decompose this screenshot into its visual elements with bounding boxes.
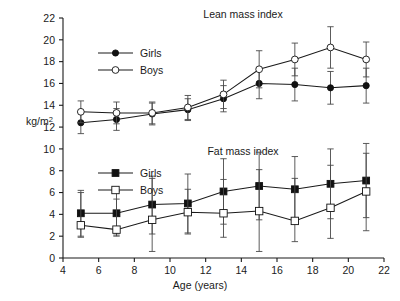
y-tick-label: 4 xyxy=(49,208,55,220)
y-tick-label: 0 xyxy=(49,252,55,264)
x-tick-label: 14 xyxy=(235,264,247,276)
y-axis-title-superscript: 2 xyxy=(49,115,53,124)
y-tick-label: 2 xyxy=(49,230,55,242)
data-point-marker xyxy=(184,208,191,215)
fat-mass-panel-title: Fat mass index xyxy=(207,145,279,157)
legend-lean-boys-marker xyxy=(112,67,119,74)
y-tick-label: 20 xyxy=(43,34,55,46)
lean-mass-legend: Girls Boys xyxy=(98,47,163,76)
data-point-marker xyxy=(291,56,298,63)
legend-fat-boys-marker xyxy=(112,186,119,193)
chart-figure: 0246810121416182022 46810121416182022 kg… xyxy=(0,0,400,301)
x-axis-tick-group: 46810121416182022 xyxy=(60,258,390,276)
x-tick-label: 4 xyxy=(60,264,66,276)
data-point-marker xyxy=(255,207,262,214)
x-tick-label: 8 xyxy=(131,264,137,276)
y-tick-label: 8 xyxy=(49,165,55,177)
data-point-marker xyxy=(148,216,155,223)
y-axis-title-main: kg/m xyxy=(26,115,49,127)
y-axis-tick-group: 0246810121416182022 xyxy=(43,12,63,264)
data-point-marker xyxy=(327,204,334,211)
data-series-layer xyxy=(77,27,370,252)
data-point-marker xyxy=(184,104,191,111)
data-point-marker xyxy=(363,56,370,63)
y-tick-label: 10 xyxy=(43,143,55,155)
error-bar xyxy=(327,165,333,238)
data-point-marker xyxy=(149,110,156,117)
data-point-marker xyxy=(327,85,333,91)
x-tick-label: 20 xyxy=(342,264,354,276)
fat-mass-legend: Girls Boys xyxy=(98,167,163,196)
data-point-marker xyxy=(363,83,369,89)
x-tick-label: 18 xyxy=(307,264,319,276)
line-chart-svg: 0246810121416182022 46810121416182022 kg… xyxy=(0,0,400,301)
legend-fat-girls-label: Girls xyxy=(140,167,162,179)
x-tick-label: 12 xyxy=(200,264,212,276)
data-point-marker xyxy=(292,81,298,87)
y-tick-label: 14 xyxy=(43,99,55,111)
x-tick-label: 10 xyxy=(164,264,176,276)
y-tick-label: 22 xyxy=(43,12,55,24)
legend-fat-girls-marker xyxy=(112,170,119,177)
legend-lean-girls-marker xyxy=(112,50,118,56)
lean-mass-panel-title: Lean mass index xyxy=(203,8,283,20)
data-point-marker xyxy=(77,108,84,115)
y-tick-label: 16 xyxy=(43,77,55,89)
legend-fat-boys-label: Boys xyxy=(140,184,163,196)
x-tick-label: 16 xyxy=(271,264,283,276)
data-point-marker xyxy=(256,66,263,73)
legend-lean-girls-label: Girls xyxy=(140,47,162,59)
x-tick-label: 22 xyxy=(378,264,390,276)
legend-lean-boys-label: Boys xyxy=(140,64,163,76)
data-point-marker xyxy=(77,222,84,229)
data-point-marker xyxy=(113,226,120,233)
data-point-marker xyxy=(220,91,227,98)
data-point-marker xyxy=(327,44,334,51)
y-tick-label: 6 xyxy=(49,186,55,198)
data-point-marker xyxy=(113,110,120,117)
x-tick-label: 6 xyxy=(96,264,102,276)
data-point-marker xyxy=(220,210,227,217)
data-point-marker xyxy=(362,188,369,195)
data-point-marker xyxy=(291,217,298,224)
y-tick-label: 18 xyxy=(43,55,55,67)
x-axis-title: Age (years) xyxy=(173,279,227,291)
